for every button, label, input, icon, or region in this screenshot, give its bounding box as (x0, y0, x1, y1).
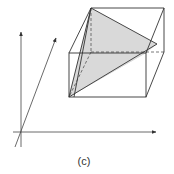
figure-caption: (c) (0, 155, 168, 167)
coordinate-cube-diagram (0, 0, 174, 174)
